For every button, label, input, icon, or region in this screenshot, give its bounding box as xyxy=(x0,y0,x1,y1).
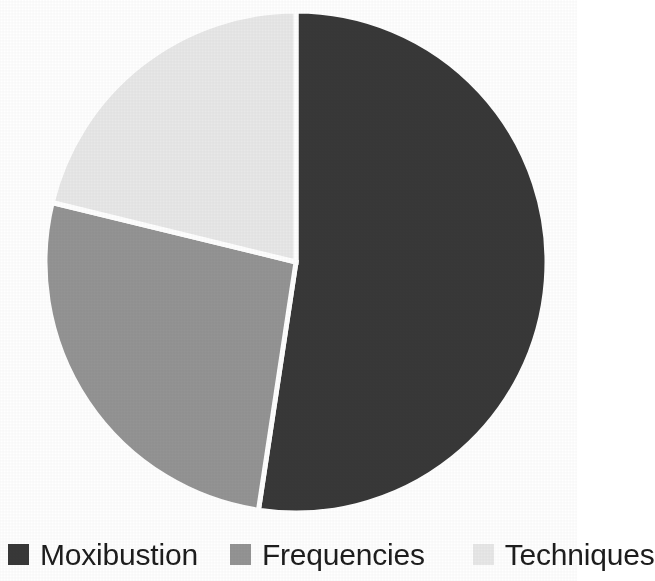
legend-label-moxibustion: Moxibustion xyxy=(40,540,198,570)
legend-swatch-techniques xyxy=(473,544,494,565)
legend-swatch-frequencies xyxy=(230,544,251,565)
legend-swatch-moxibustion xyxy=(8,544,29,565)
legend-entry-moxibustion[interactable]: Moxibustion xyxy=(8,540,198,570)
legend-label-techniques: Techniques xyxy=(505,540,655,570)
pie-svg xyxy=(0,0,577,528)
chart-legend: Moxibustion Frequencies Techniques xyxy=(0,528,577,581)
pie-slice-moxibustion[interactable] xyxy=(258,11,547,513)
pie-plot-area xyxy=(0,0,577,528)
legend-label-frequencies: Frequencies xyxy=(262,540,425,570)
pie-slice-group xyxy=(45,11,547,513)
legend-entry-frequencies[interactable]: Frequencies xyxy=(230,540,425,570)
legend-entry-techniques[interactable]: Techniques xyxy=(473,540,655,570)
